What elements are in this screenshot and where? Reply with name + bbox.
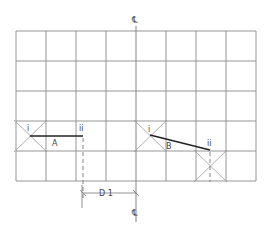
x-mark-right [194, 150, 227, 182]
centerline-symbol-top: ℄ [131, 15, 138, 25]
member-a-label: A [52, 139, 58, 148]
member-b-start-label: i [148, 125, 150, 134]
diagram-canvas: ℄ ℄ i ii A i ii B D 1 [0, 0, 269, 235]
member-b-end-label: ii [207, 139, 211, 148]
centerline-symbol-bottom: ℄ [131, 208, 138, 218]
member-a-start-label: i [27, 124, 29, 133]
member-a-end-label: ii [79, 124, 83, 133]
member-b [150, 135, 210, 150]
dimension-d1-label: D 1 [99, 189, 113, 198]
x-mark-middle [134, 120, 167, 152]
member-b-label: B [166, 142, 172, 151]
